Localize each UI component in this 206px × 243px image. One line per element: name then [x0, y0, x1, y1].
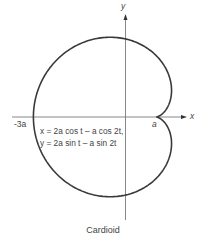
figure-caption: Cardioid	[0, 225, 206, 235]
tick-label-a: a	[152, 119, 157, 129]
tick-label-minus-3a: -3a	[14, 119, 26, 129]
cardioid-diagram	[0, 0, 206, 243]
x-axis-arrow-icon	[181, 115, 187, 119]
y-axis-label: y	[121, 1, 125, 11]
x-axis-label: x	[190, 111, 194, 121]
y-axis-arrow-icon	[124, 14, 128, 20]
equation-y: y = 2a sin t – a sin 2t	[40, 138, 116, 149]
equation-x: x = 2a cos t – a cos 2t,	[40, 126, 123, 137]
